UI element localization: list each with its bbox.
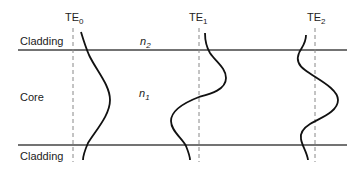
waveguide-diagram: Cladding Core Cladding n2 n1 TE0 TE1 TE2 xyxy=(0,0,360,170)
core-index-label: n1 xyxy=(139,87,150,102)
te2-mode-profile xyxy=(298,35,338,160)
te2-label: TE2 xyxy=(307,11,326,26)
cladding-index-label: n2 xyxy=(140,35,151,50)
upper-cladding-label: Cladding xyxy=(20,35,63,47)
te0-mode-profile xyxy=(81,32,110,160)
lower-cladding-label: Cladding xyxy=(20,150,63,162)
te0-label: TE0 xyxy=(65,11,84,26)
core-label: Core xyxy=(20,91,44,103)
te1-label: TE1 xyxy=(189,11,208,26)
